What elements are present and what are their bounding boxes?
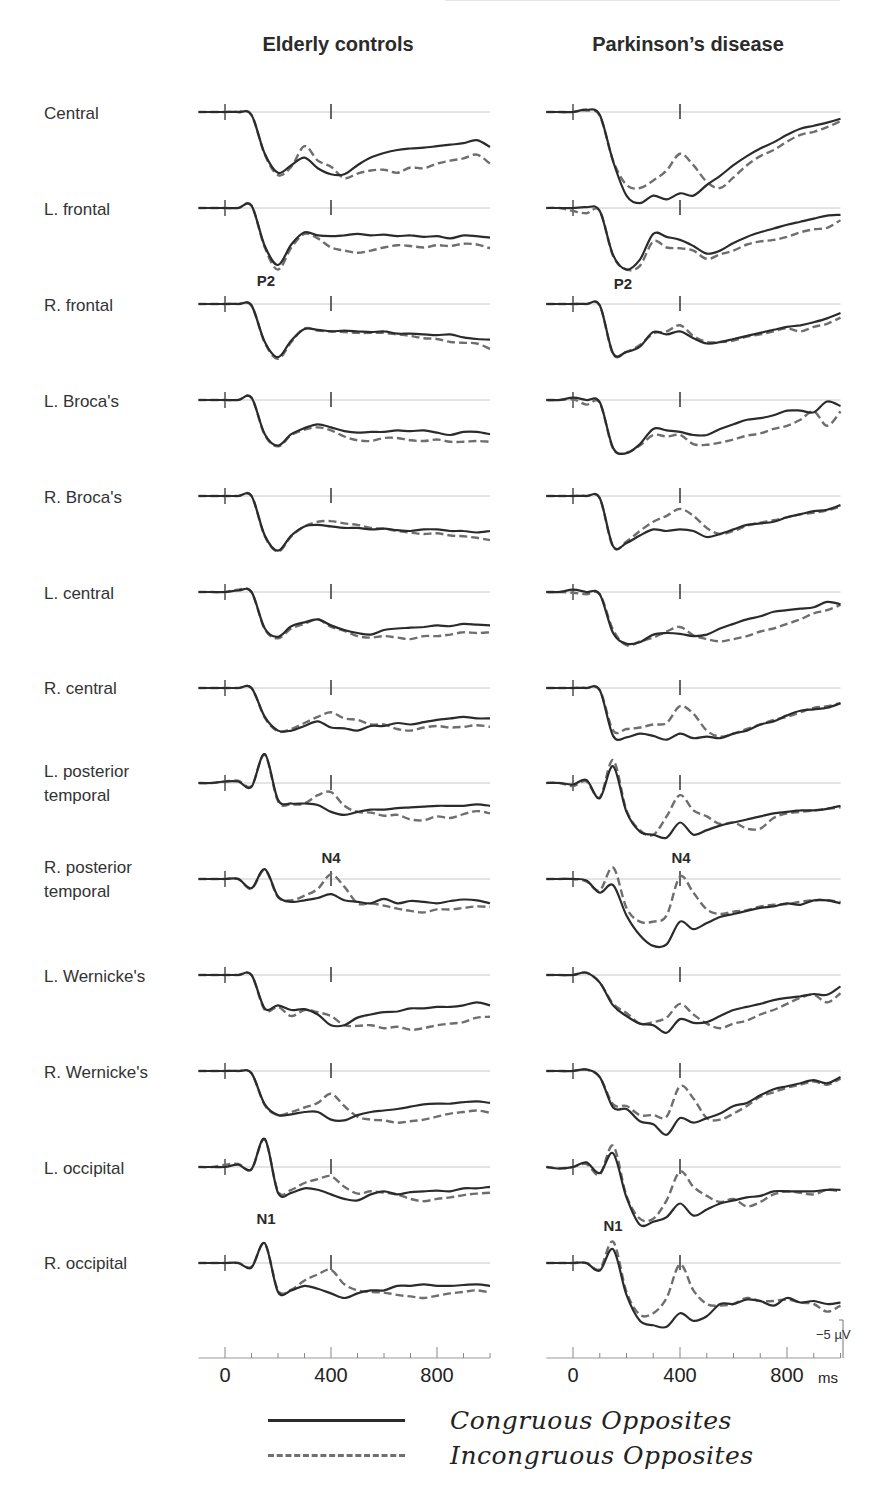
- congruous-trace: [546, 109, 840, 203]
- incongruous-trace: [199, 396, 491, 447]
- incongruous-trace: [199, 755, 491, 821]
- incongruous-trace: [546, 110, 840, 188]
- annotation-n4: N4: [671, 849, 690, 866]
- congruous-trace: [199, 111, 491, 175]
- incongruous-trace: [199, 972, 491, 1029]
- annotation-p2: P2: [257, 272, 275, 289]
- annotation-n1: N1: [603, 1217, 622, 1234]
- congruous-trace: [199, 1139, 491, 1201]
- congruous-trace: [546, 879, 840, 947]
- incongruous-trace: [546, 592, 840, 646]
- x-tick-label: 800: [770, 1364, 803, 1387]
- incongruous-trace: [546, 1145, 840, 1221]
- congruous-trace: [546, 686, 840, 740]
- incongruous-trace: [546, 301, 840, 357]
- congruous-trace: [199, 396, 491, 446]
- congruous-trace: [199, 754, 491, 815]
- incongruous-trace: [546, 399, 840, 454]
- incongruous-trace: [546, 972, 840, 1028]
- x-tick-label: 400: [663, 1364, 696, 1387]
- incongruous-trace: [199, 686, 491, 732]
- legend-solid-line-sample: [268, 1419, 405, 1422]
- incongruous-trace: [546, 1241, 840, 1316]
- erp-plot-area: [0, 0, 886, 1491]
- incongruous-trace: [546, 867, 840, 922]
- incongruous-trace: [199, 1070, 491, 1123]
- incongruous-trace: [546, 760, 840, 835]
- congruous-trace: [546, 206, 840, 269]
- legend-incongruous-label: Incongruous Opposites: [450, 1441, 754, 1470]
- x-tick-label: 0: [219, 1364, 230, 1387]
- scale-bar-label: −5 µV: [816, 1327, 851, 1342]
- x-tick-label: 400: [314, 1364, 347, 1387]
- panel-pd: [546, 104, 840, 1358]
- congruous-trace: [546, 1153, 840, 1226]
- congruous-trace: [546, 972, 840, 1032]
- annotation-n4: N4: [321, 849, 340, 866]
- incongruous-trace: [199, 493, 491, 551]
- annotation-p2: P2: [614, 275, 632, 292]
- x-tick-label: 0: [567, 1364, 578, 1387]
- congruous-trace: [199, 973, 491, 1027]
- legend-dashed-line-sample: [268, 1454, 405, 1457]
- incongruous-trace: [546, 494, 840, 550]
- congruous-trace: [546, 766, 840, 838]
- congruous-trace: [199, 589, 491, 637]
- congruous-trace: [199, 302, 491, 357]
- x-tick-label: 800: [420, 1364, 453, 1387]
- incongruous-trace: [199, 1244, 491, 1298]
- congruous-trace: [546, 494, 840, 549]
- congruous-trace: [199, 686, 491, 732]
- congruous-trace: [546, 1069, 840, 1135]
- congruous-trace: [546, 590, 840, 645]
- congruous-trace: [546, 302, 840, 357]
- panel-ec: [199, 104, 491, 1358]
- incongruous-trace: [546, 208, 840, 271]
- incongruous-trace: [199, 588, 491, 639]
- congruous-trace: [199, 1243, 491, 1298]
- incongruous-trace: [199, 870, 491, 913]
- congruous-trace: [546, 398, 840, 454]
- x-axis-unit: ms: [818, 1369, 838, 1386]
- legend-congruous-label: Congruous Opposites: [450, 1406, 732, 1435]
- congruous-trace: [199, 203, 491, 265]
- congruous-trace: [199, 493, 491, 551]
- annotation-n1: N1: [256, 1210, 275, 1227]
- incongruous-trace: [546, 1069, 840, 1120]
